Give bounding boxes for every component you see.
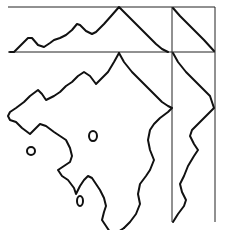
contour-bottom-edge xyxy=(110,228,124,230)
frame-lines xyxy=(8,7,215,222)
right-top-marginal-curve xyxy=(173,8,214,51)
isolated-blob-3 xyxy=(77,196,83,206)
right-marginal-curve xyxy=(173,53,214,222)
contour-right-edge xyxy=(119,53,172,228)
figure-svg xyxy=(0,0,227,230)
marginal-contour-figure xyxy=(0,0,227,230)
top-marginal-curve xyxy=(10,7,168,52)
isolated-blob-2 xyxy=(27,147,35,155)
contour-left-edge xyxy=(8,53,119,230)
isolated-blob-1 xyxy=(89,131,97,141)
